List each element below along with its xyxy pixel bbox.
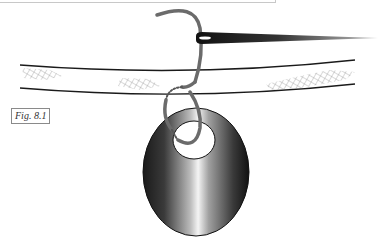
illustration	[0, 0, 380, 245]
stitch-hatch-middle	[118, 78, 160, 90]
pendant	[143, 108, 249, 236]
figure-label: Fig. 8.1	[11, 108, 50, 124]
needle-eye	[199, 36, 211, 39]
stitch-hatch-right	[266, 70, 355, 90]
strap	[20, 60, 355, 94]
stitch-hatch-left	[22, 68, 62, 80]
needle	[196, 32, 378, 44]
